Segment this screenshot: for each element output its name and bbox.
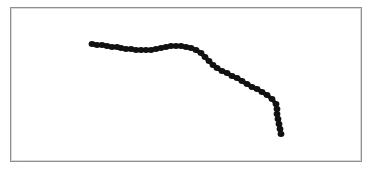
- stroke-dot: [277, 126, 284, 132]
- stroke-dot: [269, 96, 276, 102]
- stroke-dots: [89, 41, 285, 137]
- stroke-dot: [276, 121, 283, 127]
- drawing-stage: · · ·: [0, 0, 372, 171]
- stroke-dot: [275, 116, 282, 122]
- stroke-dot: [274, 106, 281, 112]
- caption-text: · · ·: [12, 163, 21, 169]
- stroke-dot: [273, 101, 280, 107]
- stroke-dot: [264, 92, 271, 98]
- drawn-stroke: [0, 0, 372, 171]
- stroke-dot: [278, 131, 285, 137]
- stroke-dot: [274, 111, 281, 117]
